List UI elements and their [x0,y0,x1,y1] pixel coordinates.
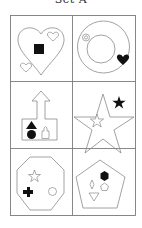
arrow-house-outline-icon [22,91,57,140]
small-heart-icon [20,63,31,72]
ring-inner-icon [87,35,115,63]
cell-ring [78,21,130,73]
solid-heart-icon [117,54,129,65]
solid-circle-icon [27,130,36,139]
puzzle-grid [0,0,142,228]
tiny-circle-icon [84,36,87,39]
cell-octagon [17,157,64,210]
cell-arrow-house [22,91,57,140]
hollow-star-icon [29,170,41,182]
small-heart-icon [47,32,58,41]
solid-star-icon [112,96,125,109]
hollow-pentagon-icon [101,183,109,191]
small-house-icon [42,127,49,139]
star-outline-icon [74,94,134,153]
octagon-outline-icon [17,157,64,210]
grid-lines [11,16,136,216]
solid-square-icon [34,44,44,54]
solid-cross-icon [23,187,33,197]
cell-pentagon [76,160,125,208]
solid-hexagon-icon [101,171,109,181]
ring-outer-icon [78,21,130,73]
cell-heart [18,28,64,75]
pentagon-outline-icon [76,160,125,208]
small-star-icon [90,114,103,127]
solid-triangle-icon [26,121,37,129]
cell-star [74,94,134,153]
hollow-triangle-down-icon [89,193,99,201]
hollow-circle-icon [49,188,57,196]
hollow-diamond-icon [90,180,94,189]
